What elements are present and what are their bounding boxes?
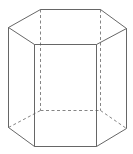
visible-edge-topB-topC: [101, 10, 127, 29]
hexagonal-prism-diagram: [0, 0, 133, 154]
hidden-edge-botB-botC: [101, 111, 127, 129]
visible-edge-topF-topA: [9, 10, 41, 28]
visible-edge-topE-topF: [9, 28, 35, 45]
hidden-edge-botF-botA: [9, 111, 41, 128]
visible-edge-botC-botD: [97, 129, 127, 147]
visible-edge-botE-botF: [9, 128, 35, 147]
visible-edge-topC-topD: [97, 29, 127, 45]
